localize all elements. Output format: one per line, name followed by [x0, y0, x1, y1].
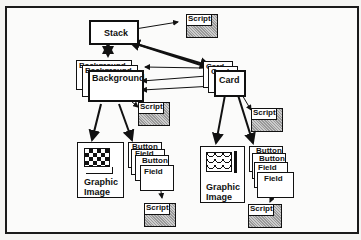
card-script: Script	[251, 108, 283, 132]
scales-pattern-icon	[206, 152, 232, 172]
card-box-3: Card	[214, 70, 246, 97]
background-script: Script	[138, 102, 170, 126]
bg-objects-script: Script	[144, 203, 176, 227]
bg-object-4: Field	[140, 165, 174, 191]
background-graphic-image: Graphic Image	[77, 142, 124, 198]
stack-script: Script	[186, 14, 218, 38]
background-box-3: Background	[88, 70, 144, 102]
stack-label: Stack	[104, 28, 128, 38]
checkerboard-icon	[84, 148, 110, 167]
card-objects-script: Script	[248, 204, 280, 228]
vertical-bar-icon	[234, 151, 237, 173]
bracket-arrow-icon	[86, 167, 113, 174]
stack-box: Stack	[89, 20, 139, 45]
card-graphic-image: Graphic Image	[200, 146, 245, 203]
connector-arrows	[0, 0, 361, 240]
card-object-4: Field	[257, 172, 294, 198]
